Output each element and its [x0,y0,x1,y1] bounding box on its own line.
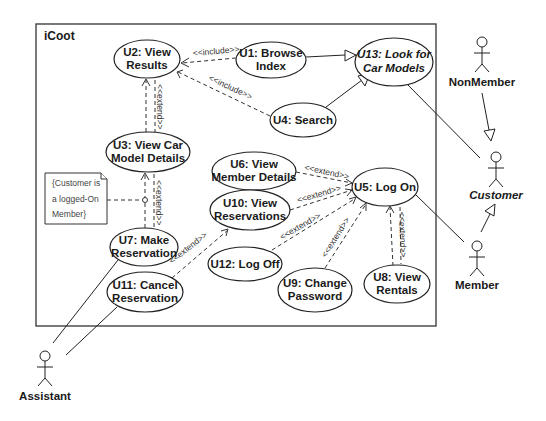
svg-text:Assistant: Assistant [19,390,71,402]
svg-text:Member}: Member} [52,209,86,219]
system-title: iCoot [44,29,75,43]
svg-text:Member: Member [455,279,500,291]
svg-text:U2: View: U2: View [123,46,171,58]
svg-text:U5: Log On: U5: Log On [354,181,416,193]
use-case-u7[interactable]: U7: Make Reservation [110,228,178,266]
extend-u10-u5: <<extend>> [290,183,352,210]
svg-text:NonMember: NonMember [449,76,516,88]
svg-text:Reservation: Reservation [112,292,178,304]
svg-text:U8: View: U8: View [373,271,421,283]
svg-text:<<extend>>: <<extend>> [319,215,352,259]
stick-figure-icon [488,152,504,187]
svg-text:U9: Change: U9: Change [283,277,347,289]
use-case-u3[interactable]: U3: View Car Model Details [106,132,190,172]
use-case-u9[interactable]: U9: Change Password [278,268,352,312]
svg-text:U7: Make: U7: Make [119,234,170,246]
actor-assistant[interactable]: Assistant [19,351,71,402]
svg-text:U6: View: U6: View [230,158,278,170]
svg-text:Customer: Customer [469,189,523,201]
use-case-u8[interactable]: U8: View Rentals [364,265,430,303]
svg-text:<<extend>>: <<extend>> [154,180,164,225]
svg-text:Reservation: Reservation [111,247,177,259]
use-case-diagram: iCoot <<include>> <<include>> <<extend>>… [0,0,546,421]
svg-text:U12: Log Off: U12: Log Off [211,258,280,270]
svg-text:U4: Search: U4: Search [273,114,333,126]
svg-text:U3: View Car: U3: View Car [113,139,184,151]
actor-nonmember[interactable]: NonMember [449,37,516,88]
use-case-u1[interactable]: U1: Browse Index [236,42,306,78]
extend-u3-u2: <<extend>> [142,79,165,132]
stick-figure-icon [37,351,53,386]
svg-text:U1: Browse: U1: Browse [239,47,302,59]
svg-text:Member Details: Member Details [211,171,296,183]
generalization-nonmember-customer [482,93,495,141]
svg-text:U13: Look for: U13: Look for [357,48,432,60]
generalization-member-customer [481,204,495,232]
use-case-u2[interactable]: U2: View Results [114,40,180,78]
svg-text:U11: Cancel: U11: Cancel [112,279,177,291]
constraint-note: {Customer is a logged-On Member} [45,173,107,224]
use-case-u12[interactable]: U12: Log Off [208,247,282,281]
svg-text:<<extend>>: <<extend>> [397,212,409,258]
use-case-u6[interactable]: U6: View Member Details [211,152,296,190]
svg-text:Password: Password [288,290,342,302]
extend-u9-u5: <<extend>> [319,203,366,268]
svg-text:Model Details: Model Details [111,152,185,164]
use-case-u5[interactable]: U5: Log On [352,168,418,206]
actor-member[interactable]: Member [455,241,500,291]
extend-u8-u5: <<extend>> [386,206,409,266]
assoc-u5-member [416,195,464,242]
use-case-u13[interactable]: U13: Look for Car Models [355,38,433,86]
extend-u6-u5: <<extend>> [296,162,352,186]
extend-u7-u3: <<extend>> [141,173,164,228]
stick-figure-icon [474,37,490,72]
use-case-u4[interactable]: U4: Search [270,103,336,137]
svg-text:Results: Results [126,59,168,71]
svg-text:a logged-On: a logged-On [52,194,99,204]
svg-text:U10: View: U10: View [223,197,277,209]
use-case-u11[interactable]: U11: Cancel Reservation [107,272,183,312]
svg-text:<<include>>: <<include>> [192,44,240,58]
generalization-u1-u13 [306,50,356,61]
assoc-u13-customer [407,84,480,158]
svg-text:<<extend>>: <<extend>> [155,84,165,129]
assoc-u11-assistant [66,307,117,355]
include-u1-u2: <<include>> [181,44,240,67]
svg-text:Index: Index [256,60,287,72]
svg-text:Reservations: Reservations [214,210,286,222]
svg-text:Car Models: Car Models [363,62,425,74]
generalization-u4-u13 [326,73,370,107]
assoc-u7-assistant [53,260,118,343]
stick-figure-icon [469,241,485,276]
actor-customer[interactable]: Customer [469,152,523,201]
use-case-u10[interactable]: U10: View Reservations [210,190,290,230]
svg-text:<<extend>>: <<extend>> [296,183,342,205]
svg-text:Rentals: Rentals [376,284,418,296]
svg-text:{Customer is: {Customer is [52,178,100,188]
